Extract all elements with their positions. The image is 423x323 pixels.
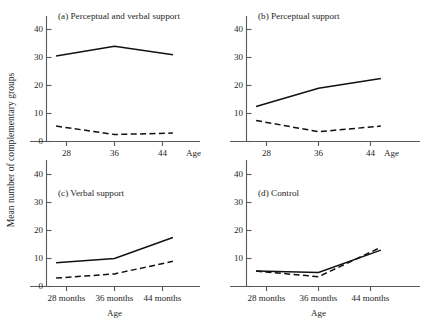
panel-b-xtick-28: 28 xyxy=(262,148,272,158)
panel-b-series-solid xyxy=(256,79,381,107)
panel-b-y-ticks xyxy=(247,30,252,142)
figure-svg: Mean number of complementary groups (a) … xyxy=(0,0,423,323)
panel-d-x-axis-name: Age xyxy=(311,308,326,318)
panel-b: (b) Perceptual support 10 20 30 40 28 36 xyxy=(230,11,420,158)
panel-b-series-dashed xyxy=(256,121,381,132)
panel-d-ytick-10: 10 xyxy=(234,253,244,263)
panel-a-xtick-36: 36 xyxy=(110,148,120,158)
panel-c-x-ticks xyxy=(67,287,163,292)
panel-a-y-ticks xyxy=(47,30,52,142)
panel-a-xtick-44: 44 xyxy=(158,148,168,158)
panel-c-xtick-36: 36 months xyxy=(96,293,134,303)
panel-c-ytick-0: 0 xyxy=(39,281,44,291)
panel-c-x-axis-name: Age xyxy=(107,308,122,318)
panel-d-y-ticks xyxy=(247,175,252,287)
panel-d-xtick-44: 44 months xyxy=(352,293,390,303)
panel-a: (a) Perceptual and verbal support 0 10 2… xyxy=(30,11,201,158)
panel-d-ytick-40: 40 xyxy=(234,169,244,179)
panel-b-title: (b) Perceptual support xyxy=(258,11,340,21)
panel-c-xtick-44: 44 months xyxy=(144,293,182,303)
panel-c-xtick-28: 28 months xyxy=(48,293,86,303)
panel-c-ytick-20: 20 xyxy=(34,225,44,235)
panel-a-ytick-20: 20 xyxy=(34,80,44,90)
panel-d-series-solid xyxy=(256,250,381,272)
panel-b-xtick-44: 44 xyxy=(366,148,376,158)
panel-d-title: (d) Control xyxy=(258,188,300,198)
panel-d-x-ticks xyxy=(267,287,371,292)
panel-d-xtick-28: 28 months xyxy=(248,293,286,303)
panel-d-ytick-30: 30 xyxy=(234,197,244,207)
panel-a-x-axis-name: Age xyxy=(186,148,201,158)
panel-c-ytick-10: 10 xyxy=(34,253,44,263)
panel-b-ytick-20: 20 xyxy=(234,80,244,90)
panel-a-series-dashed xyxy=(56,126,173,134)
panel-c-y-ticks xyxy=(47,175,52,287)
panel-b-ytick-40: 40 xyxy=(234,24,244,34)
panel-a-title: (a) Perceptual and verbal support xyxy=(58,11,180,21)
figure-panel-grid: Mean number of complementary groups (a) … xyxy=(0,0,423,323)
panel-a-x-ticks xyxy=(67,142,163,147)
panel-a-ytick-0: 0 xyxy=(39,136,44,146)
panel-a-ytick-10: 10 xyxy=(34,108,44,118)
panel-a-ytick-30: 30 xyxy=(34,52,44,62)
panel-b-ytick-10: 10 xyxy=(234,108,244,118)
panel-d: (d) Control 10 20 30 40 28 months 36 mon… xyxy=(230,160,420,318)
panel-a-xtick-28: 28 xyxy=(62,148,72,158)
panel-b-x-axis-name: Age xyxy=(384,148,399,158)
panel-d-xtick-36: 36 months xyxy=(300,293,338,303)
panel-b-ytick-30: 30 xyxy=(234,52,244,62)
panel-c: (c) Verbal support 0 10 20 30 40 28 mont… xyxy=(30,160,200,318)
panel-c-ytick-40: 40 xyxy=(34,169,44,179)
panel-c-ytick-30: 30 xyxy=(34,197,44,207)
y-axis-label: Mean number of complementary groups xyxy=(5,72,16,227)
panel-b-x-ticks xyxy=(267,142,371,147)
panel-a-series-solid xyxy=(56,46,173,56)
panel-c-series-solid xyxy=(56,238,173,263)
panel-a-ytick-40: 40 xyxy=(34,24,44,34)
panel-c-title: (c) Verbal support xyxy=(58,188,125,198)
panel-c-series-dashed xyxy=(56,261,173,278)
panel-d-ytick-20: 20 xyxy=(234,225,244,235)
panel-b-xtick-36: 36 xyxy=(314,148,324,158)
